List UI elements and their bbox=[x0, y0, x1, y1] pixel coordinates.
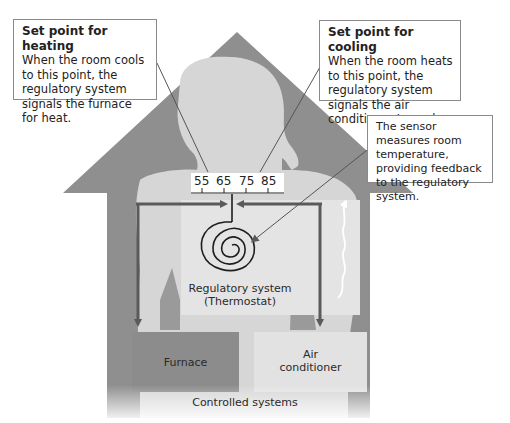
regulatory-system-label: Regulatory system (Thermostat) bbox=[180, 282, 300, 308]
heating-setpoint-callout: Set point for heating When the room cool… bbox=[13, 19, 157, 100]
scale-value-65: 65 bbox=[216, 174, 231, 188]
heating-callout-body: When the room cools to this point, the r… bbox=[22, 53, 144, 125]
heating-callout-title: Set point for heating bbox=[22, 24, 149, 53]
air-conditioner-label: Air conditioner bbox=[254, 348, 367, 374]
scale-value-85: 85 bbox=[261, 174, 276, 188]
air-conditioner-line2: conditioner bbox=[254, 361, 367, 374]
controlled-systems-label: Controlled systems bbox=[180, 396, 310, 409]
cooling-callout-title: Set point for cooling bbox=[328, 25, 453, 54]
regulatory-system-line1: Regulatory system bbox=[180, 282, 300, 295]
scale-value-75: 75 bbox=[239, 174, 254, 188]
sensor-callout: The sensor measures room temperature, pr… bbox=[367, 115, 493, 183]
air-conditioner-line1: Air bbox=[254, 348, 367, 361]
furnace-label: Furnace bbox=[132, 356, 239, 369]
cooling-setpoint-callout: Set point for cooling When the room heat… bbox=[319, 20, 461, 101]
scale-value-55: 55 bbox=[194, 174, 209, 188]
regulatory-system-line2: (Thermostat) bbox=[180, 295, 300, 308]
